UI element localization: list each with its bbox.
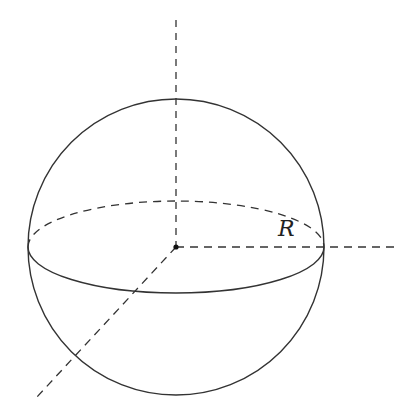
radius-label: R — [277, 216, 295, 241]
equator-front — [28, 247, 324, 293]
diagonal-axis — [36, 247, 176, 398]
diagram-svg: R — [0, 0, 414, 418]
center-point — [173, 244, 178, 249]
sphere-diagram: R — [0, 0, 414, 418]
